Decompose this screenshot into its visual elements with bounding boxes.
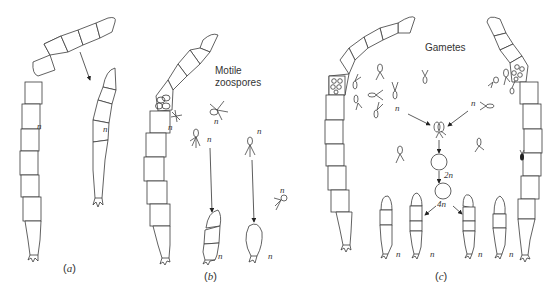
ploidy-label: n (268, 252, 273, 261)
gamete (376, 64, 384, 80)
zoospore (245, 137, 255, 157)
germination-arrow-1 (210, 148, 212, 212)
gamete-dark (520, 150, 524, 161)
ploidy-label-4n: 4n (437, 200, 446, 209)
gamete (422, 70, 428, 84)
ploidy-label: n (214, 117, 219, 126)
zoospores-title: Motilezoospores (215, 65, 261, 88)
ploidy-label: n (103, 125, 108, 134)
fragmentation-arrow (80, 52, 90, 80)
gamete (396, 146, 404, 163)
panel-label-c: (c) (435, 270, 447, 282)
ploidy-label: n (430, 250, 435, 259)
fusion-arrow-right (448, 111, 468, 126)
filament-gametangium-left (325, 17, 415, 252)
ploidy-label: n (257, 127, 262, 136)
filament-fragment-upper (33, 18, 116, 77)
gamete (392, 82, 398, 99)
ploidy-label: n (280, 186, 285, 195)
meiosis-arrow-left (425, 206, 436, 215)
gametes (353, 64, 524, 163)
ploidy-label: n (168, 123, 173, 132)
zoospore (190, 129, 200, 148)
panel-label-a: (a) (63, 262, 76, 274)
panel-label-b: (b) (204, 270, 217, 282)
young-filament-3 (463, 195, 475, 259)
panel-a (20, 18, 116, 263)
gamete (510, 81, 515, 94)
ploidy-label: n (37, 122, 42, 131)
gamete (475, 138, 484, 152)
gamete (368, 90, 383, 100)
gamete (488, 77, 499, 88)
ploidy-label: n (207, 135, 212, 144)
ploidy-label: n (218, 252, 223, 261)
ploidy-label: n (395, 104, 400, 113)
algae-life-cycle-diagram (0, 0, 560, 298)
germinating-spore (246, 224, 262, 263)
gamete (354, 95, 362, 110)
ploidy-label: n (396, 250, 401, 259)
germination-arrow-2 (252, 160, 254, 222)
gametes-title: Gametes (425, 42, 466, 54)
zygote (431, 154, 447, 170)
gamete (480, 102, 494, 110)
ploidy-label-2n: 2n (444, 171, 453, 180)
zoospore (210, 101, 228, 120)
young-filament-4 (493, 196, 506, 259)
ploidy-label: n (471, 99, 476, 108)
zoospore (274, 195, 287, 210)
gamete (504, 69, 511, 85)
young-filament-2 (410, 193, 422, 259)
young-filament-1 (380, 196, 392, 259)
fusion-arrow-left (408, 114, 430, 125)
fusing-gametes (434, 122, 446, 138)
meiosis-arrow-right (453, 206, 462, 214)
ploidy-label: n (509, 250, 514, 259)
zygospore (435, 183, 451, 199)
panel-c (325, 17, 542, 262)
ploidy-label: n (478, 250, 483, 259)
gamete (374, 102, 383, 118)
gamete (353, 74, 361, 89)
filament-long (20, 82, 42, 262)
filament-short (93, 68, 116, 207)
